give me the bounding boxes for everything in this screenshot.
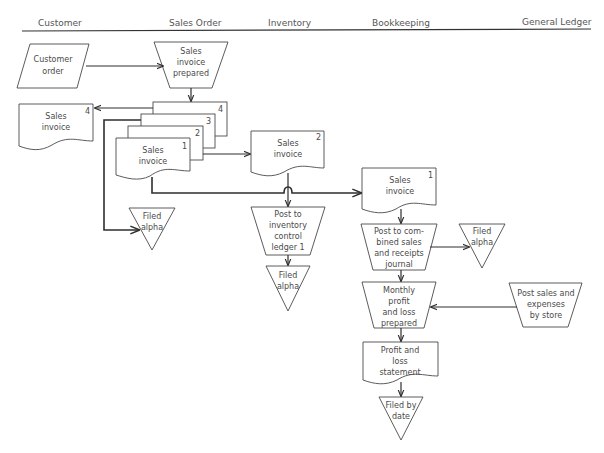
node-invoice-copy-2: 2 Sales invoice — [251, 131, 324, 176]
svg-text:journal: journal — [384, 260, 413, 269]
node-monthly-pl: Monthly profit and loss prepared — [362, 282, 436, 328]
node-invoice-stack: 4 3 2 1 Sales invoice — [116, 102, 227, 179]
svg-text:Sales: Sales — [45, 112, 66, 121]
svg-text:Post to com-: Post to com- — [374, 227, 424, 236]
svg-text:date: date — [392, 412, 410, 421]
svg-text:2: 2 — [316, 133, 321, 142]
node-filed-alpha-inventory: Filed alpha — [266, 266, 310, 311]
svg-text:1: 1 — [182, 142, 187, 151]
svg-text:alpha: alpha — [471, 238, 493, 247]
node-post-journal: Post to com- bined sales and receipts jo… — [361, 224, 437, 270]
svg-text:Profit and: Profit and — [381, 346, 419, 355]
svg-text:Post sales and: Post sales and — [517, 289, 574, 298]
lane-label-sales-order: Sales Order — [169, 18, 222, 28]
svg-text:3: 3 — [206, 117, 211, 126]
node-filed-by-date: Filed by date — [379, 397, 423, 440]
lane-label-general-ledger: General Ledger — [522, 17, 592, 27]
svg-text:Post to: Post to — [274, 210, 301, 219]
svg-text:Sales: Sales — [277, 139, 298, 148]
edge-stack-to-copy1 — [152, 177, 361, 193]
lane-label-inventory: Inventory — [268, 18, 312, 28]
svg-text:statement: statement — [379, 368, 420, 377]
sales-invoice-flowchart: Customer Sales Order Inventory Bookkeepi… — [0, 0, 604, 453]
svg-text:control: control — [274, 232, 302, 241]
svg-text:invoice: invoice — [42, 123, 71, 132]
svg-text:bined sales: bined sales — [376, 238, 421, 247]
svg-text:alpha: alpha — [277, 282, 299, 291]
lane-label-customer: Customer — [38, 18, 82, 28]
svg-text:profit: profit — [388, 297, 409, 306]
node-invoice-prepared: Sales invoice prepared — [154, 42, 228, 88]
svg-text:alpha: alpha — [141, 223, 163, 232]
svg-text:Filed: Filed — [473, 227, 491, 236]
svg-text:loss: loss — [392, 357, 407, 366]
svg-text:Filed by: Filed by — [386, 401, 417, 410]
svg-text:and receipts: and receipts — [374, 249, 424, 258]
svg-text:prepared: prepared — [381, 319, 417, 328]
svg-text:Sales: Sales — [389, 176, 410, 185]
svg-text:4: 4 — [85, 107, 90, 116]
svg-text:invoice: invoice — [139, 157, 168, 166]
svg-text:Monthly: Monthly — [383, 286, 415, 295]
svg-text:order: order — [42, 67, 64, 76]
node-invoice-copy-4: 4 Sales invoice — [19, 104, 93, 150]
node-customer-order: Customer order — [17, 44, 89, 88]
svg-text:Filed: Filed — [143, 212, 161, 221]
svg-text:1: 1 — [428, 171, 433, 180]
svg-text:2: 2 — [195, 129, 200, 138]
node-post-inventory: Post to inventory control ledger 1 — [251, 207, 325, 255]
node-invoice-copy-1: 1 Sales invoice — [362, 168, 436, 213]
svg-text:Sales: Sales — [142, 146, 163, 155]
svg-text:Sales: Sales — [180, 47, 201, 56]
svg-text:invoice: invoice — [386, 187, 415, 196]
node-filed-alpha-bookkeeping: Filed alpha — [459, 224, 505, 268]
node-filed-alpha-sales: Filed alpha — [129, 208, 175, 250]
svg-text:Filed: Filed — [279, 271, 297, 280]
svg-text:Customer: Customer — [34, 55, 74, 64]
svg-text:invoice: invoice — [274, 150, 303, 159]
svg-text:invoice: invoice — [177, 58, 206, 67]
svg-text:prepared: prepared — [173, 69, 209, 78]
node-pl-statement: Profit and loss statement — [363, 342, 438, 384]
svg-text:expenses: expenses — [527, 300, 565, 309]
node-post-sales-expenses: Post sales and expenses by store — [509, 283, 582, 327]
svg-text:inventory: inventory — [269, 221, 307, 230]
svg-text:4: 4 — [218, 105, 223, 114]
svg-text:ledger 1: ledger 1 — [271, 243, 304, 252]
svg-text:by store: by store — [530, 311, 563, 320]
header-rule — [22, 29, 591, 31]
lane-label-bookkeeping: Bookkeeping — [372, 18, 430, 28]
svg-text:and loss: and loss — [382, 308, 415, 317]
swimlane-header: Customer Sales Order Inventory Bookkeepi… — [22, 17, 592, 31]
